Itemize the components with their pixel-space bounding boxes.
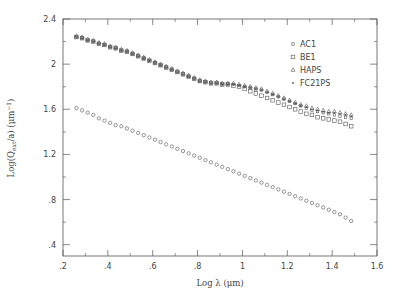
x-tick-label: .8 — [194, 262, 202, 271]
legend-item-be1: BE1 — [291, 53, 315, 62]
y-tick-label: 1.2 — [43, 150, 56, 159]
legend-item-fc21ps: FC21PS — [292, 79, 330, 88]
y-axis-ticks: .4.81.21.622.4 — [43, 15, 377, 250]
x-tick-label: .2 — [59, 262, 67, 271]
svg-text:AC1: AC1 — [300, 40, 316, 49]
chart: .2.4.6.811.21.41.6 .4.81.21.622.4 AC1BE1… — [0, 0, 397, 300]
y-tick-label: .8 — [48, 196, 56, 205]
x-tick-label: .4 — [104, 262, 112, 271]
x-axis-label: Log λ (μm) — [196, 278, 243, 288]
y-tick-label: 2 — [51, 60, 56, 69]
data-points — [74, 34, 353, 223]
series-lower-series — [75, 106, 353, 222]
y-tick-label: 1.6 — [43, 105, 56, 114]
svg-text:FC21PS: FC21PS — [300, 79, 330, 88]
svg-text:BE1: BE1 — [300, 53, 316, 62]
legend: AC1BE1HAPSFC21PS — [291, 40, 330, 88]
y-axis-label: Log(Qext/a) (μm−1) — [5, 99, 17, 178]
legend-item-haps: HAPS — [291, 66, 321, 75]
x-tick-label: 1.4 — [326, 262, 339, 271]
svg-text:HAPS: HAPS — [300, 66, 321, 75]
x-tick-label: 1.2 — [281, 262, 294, 271]
y-tick-label: 2.4 — [43, 15, 56, 24]
plot-frame — [63, 19, 377, 256]
x-axis-ticks: .2.4.6.811.21.41.6 — [59, 19, 383, 271]
y-tick-label: .4 — [48, 241, 56, 250]
x-tick-label: .6 — [149, 262, 157, 271]
x-tick-label: 1 — [240, 262, 245, 271]
x-tick-label: 1.6 — [371, 262, 384, 271]
legend-item-ac1: AC1 — [292, 40, 316, 49]
